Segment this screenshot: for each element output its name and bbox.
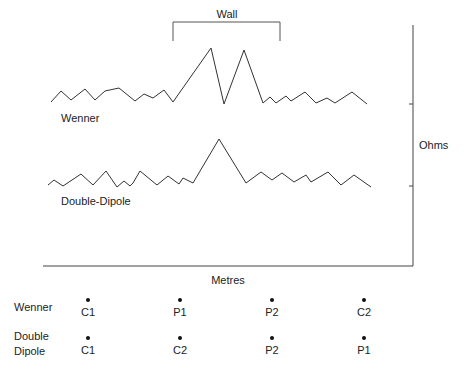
electrode-dot [178, 298, 182, 302]
x-axis-label: Metres [211, 275, 245, 286]
wenner-resistance-line [51, 48, 367, 104]
electrode-dot [362, 336, 366, 340]
double-dipole-resistance-line [48, 139, 371, 187]
electrode-dot [178, 336, 182, 340]
electrode-row-label-line1: Double [14, 331, 49, 342]
double-dipole-series-label: Double-Dipole [61, 196, 131, 207]
electrode-label: P2 [265, 345, 278, 356]
electrode-dot [86, 336, 90, 340]
electrode-dot [362, 298, 366, 302]
electrode-dot [270, 336, 274, 340]
wall-bracket [173, 22, 280, 41]
y-axis-label: Ohms [419, 140, 448, 151]
electrode-label: C1 [81, 345, 95, 356]
electrode-label: C2 [357, 307, 371, 318]
electrode-row-label-line2: Dipole [14, 346, 45, 357]
electrode-dot [86, 298, 90, 302]
diagram-canvas [0, 0, 465, 366]
electrode-label: P1 [357, 345, 370, 356]
wall-label: Wall [217, 9, 238, 20]
electrode-label: C1 [81, 307, 95, 318]
electrode-label: P1 [173, 307, 186, 318]
wenner-series-label: Wenner [61, 113, 99, 124]
electrode-row-label: Wenner [14, 302, 52, 313]
electrode-label: C2 [173, 345, 187, 356]
electrode-dot [270, 298, 274, 302]
electrode-label: P2 [265, 307, 278, 318]
